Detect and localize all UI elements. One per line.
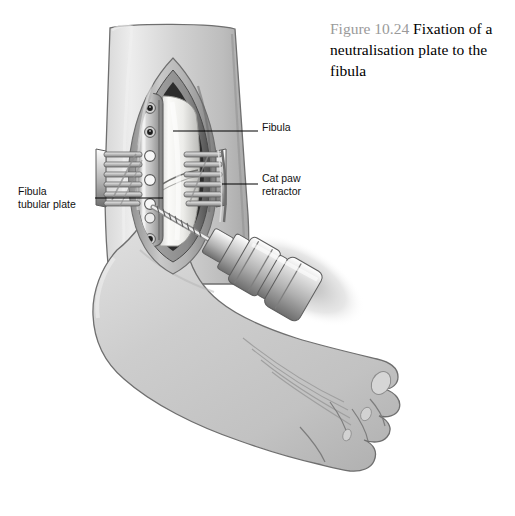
plate-hole-4 xyxy=(145,175,156,186)
plate-hole-2 xyxy=(145,127,156,138)
plate-hole-3 xyxy=(145,151,156,162)
annotation-label-fibula: Fibula xyxy=(262,121,291,134)
figure-root: Figure 10.24 Fixation of a neutralisatio… xyxy=(0,0,515,516)
annotation-label-fibula-tubular-plate: Fibula tubular plate xyxy=(18,185,76,210)
figure-caption: Figure 10.24 Fixation of a neutralisatio… xyxy=(330,18,510,81)
annotation-label-cat-paw-retractor: Cat paw retractor xyxy=(262,172,301,197)
plate-hole-6 xyxy=(145,213,155,223)
figure-number: Figure 10.24 xyxy=(330,20,409,37)
